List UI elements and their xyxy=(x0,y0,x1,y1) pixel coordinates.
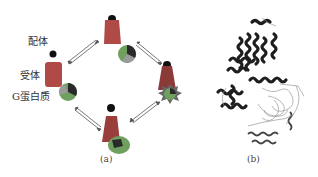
g-protein-pie xyxy=(108,136,130,154)
protein-ribbon-structure xyxy=(218,18,304,144)
g-protein-pie xyxy=(59,83,77,101)
label-receptor: 受体 xyxy=(20,67,40,82)
state-right xyxy=(158,61,182,104)
caption-b: (b) xyxy=(247,154,260,164)
label-g-protein: G蛋白质 xyxy=(12,88,50,103)
g-protein-pie xyxy=(118,45,136,63)
receptor-block xyxy=(45,62,62,87)
receptor-block xyxy=(104,20,121,44)
state-bottom xyxy=(102,104,130,154)
state-top xyxy=(104,15,136,63)
receptor-block xyxy=(158,66,176,90)
label-ligand: 配体 xyxy=(28,33,48,48)
caption-a: (a) xyxy=(100,154,112,164)
ligand-dot xyxy=(50,51,57,58)
ligand-dot xyxy=(107,104,115,112)
